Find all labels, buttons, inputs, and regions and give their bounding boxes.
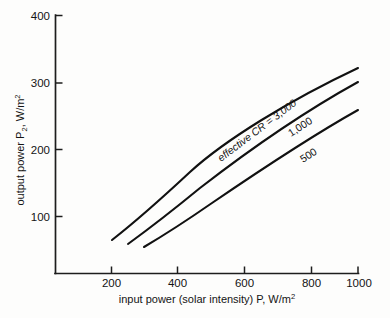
- y-tick-label-400: 400: [31, 10, 50, 22]
- y-tick-label-300: 300: [31, 77, 50, 89]
- chart-figure: 400 300 200 100 200 400 600 800 1000 out…: [0, 0, 390, 318]
- y-axis-title-sup: 2: [13, 94, 22, 98]
- x-tick-label-600: 600: [235, 277, 254, 289]
- x-axis-ticks: [112, 267, 359, 274]
- curve-cr-1000: [128, 82, 358, 244]
- x-tick-label-1000: 1000: [346, 277, 372, 289]
- y-axis-tick-labels: 400 300 200 100: [31, 10, 50, 223]
- y-tick-label-100: 100: [31, 211, 50, 223]
- curve-cr-3000: [112, 68, 358, 240]
- x-tick-label-800: 800: [302, 277, 321, 289]
- x-axis-tick-labels: 200 400 600 800 1000: [102, 277, 372, 289]
- y-tick-label-200: 200: [31, 144, 50, 156]
- svg-text:input power (solar intensity): input power (solar intensity) P, W/m2: [119, 292, 295, 305]
- line-chart: 400 300 200 100 200 400 600 800 1000 out…: [0, 0, 390, 318]
- curve-label-cr-500: 500: [298, 145, 319, 165]
- y-axis-title-prefix: output power P: [14, 132, 26, 206]
- x-axis-title: input power (solar intensity) P, W/m2: [119, 292, 295, 305]
- axis-lines: [55, 15, 359, 274]
- data-series-group: [112, 68, 358, 247]
- y-axis-title: output power P2, W/m2: [13, 94, 28, 205]
- x-axis-title-sup: 2: [291, 292, 295, 301]
- svg-text:output power P2, W/m2: output power P2, W/m2: [13, 94, 28, 205]
- curve-label-cr-500-text: 500: [298, 145, 319, 165]
- x-tick-label-200: 200: [102, 277, 121, 289]
- x-tick-label-400: 400: [168, 277, 187, 289]
- y-axis-title-mid: , W/m: [14, 99, 26, 128]
- x-axis-title-prefix: input power (solar intensity) P, W/m: [119, 293, 291, 305]
- y-axis-ticks: [56, 16, 63, 217]
